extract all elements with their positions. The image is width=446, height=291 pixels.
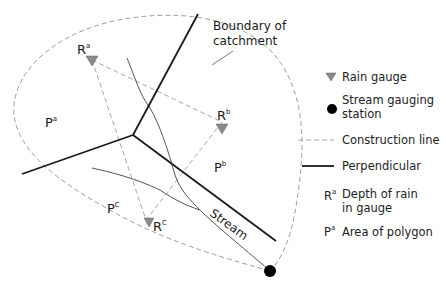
gauge-label-a: Ra <box>77 42 90 57</box>
legend: Rain gauge Stream gauging station Constr… <box>298 70 440 239</box>
thiessen-diagram: Ra Rb RC Pa Pb PC Stream Boundary of cat… <box>0 0 446 291</box>
legend-construction-label: Construction line <box>342 133 440 147</box>
legend-depth-label-1: Depth of rain <box>342 187 418 201</box>
construction-lines <box>92 60 222 220</box>
polygon-label-c: PC <box>107 201 120 216</box>
legend-depth-label-2: in gauge <box>342 201 392 215</box>
legend-depth-symbol: Ra <box>324 188 336 203</box>
legend-station-icon <box>327 104 337 114</box>
polygon-label-b: Pb <box>214 160 227 175</box>
polygon-label-a: Pa <box>45 115 57 130</box>
rain-gauge-icon-b <box>216 124 228 134</box>
stream-label: Stream <box>207 206 250 243</box>
boundary-annotation-line2: catchment <box>213 34 278 48</box>
legend-perpendicular-label: Perpendicular <box>342 159 421 173</box>
rain-gauge-icon-a <box>86 56 98 66</box>
legend-rain-gauge-icon <box>326 73 336 81</box>
legend-area-label: Area of polygon <box>342 225 433 239</box>
legend-station-label-2: station <box>342 107 382 121</box>
legend-area-symbol: Pa <box>324 224 335 239</box>
stream-gauging-station-icon <box>264 265 276 277</box>
boundary-annotation-pointer <box>212 51 233 65</box>
boundary-annotation-line1: Boundary of <box>213 19 287 33</box>
gauge-label-c: RC <box>153 219 167 234</box>
perpendicular-lines <box>22 14 276 241</box>
legend-rain-gauge-label: Rain gauge <box>342 70 407 84</box>
legend-station-label-1: Stream gauging <box>342 93 434 107</box>
gauge-label-b: Rb <box>217 108 231 123</box>
